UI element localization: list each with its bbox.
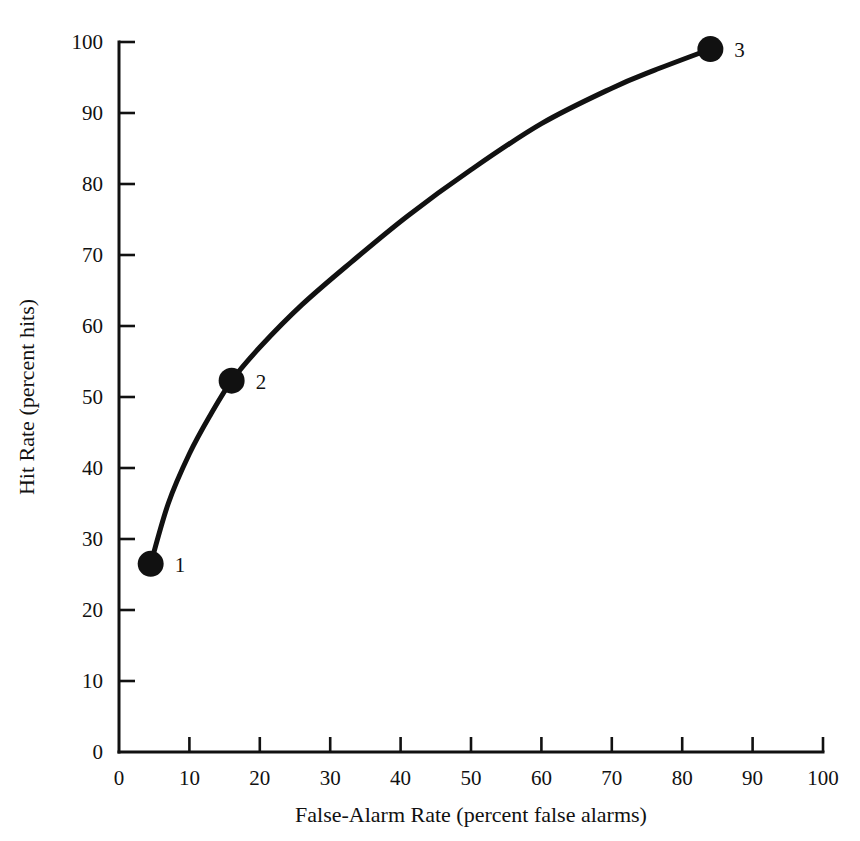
- y-tick-label: 90: [82, 101, 103, 125]
- y-tick-label: 10: [82, 669, 103, 693]
- y-tick-label: 40: [82, 456, 103, 480]
- x-tick-label: 100: [807, 766, 839, 790]
- y-tick-label: 0: [93, 740, 104, 764]
- roc-point-marker: [219, 368, 245, 394]
- y-tick-label: 30: [82, 527, 103, 551]
- x-tick-label: 0: [114, 766, 125, 790]
- x-tick-label: 20: [249, 766, 270, 790]
- x-tick-label: 40: [390, 766, 411, 790]
- roc-point-label: 3: [734, 38, 745, 62]
- x-tick-label: 30: [320, 766, 341, 790]
- roc-chart-svg: 0102030405060708090100 01020304050607080…: [0, 0, 860, 841]
- roc-point-marker: [697, 36, 723, 62]
- y-tick-label: 60: [82, 314, 103, 338]
- roc-point-label: 1: [175, 553, 186, 577]
- x-tick-label: 80: [672, 766, 693, 790]
- x-tick-label: 60: [531, 766, 552, 790]
- x-axis-title: False-Alarm Rate (percent false alarms): [295, 802, 647, 827]
- x-tick-label: 10: [179, 766, 200, 790]
- y-tick-label: 80: [82, 172, 103, 196]
- y-tick-label: 100: [72, 30, 104, 54]
- x-tick-label: 50: [461, 766, 482, 790]
- y-tick-label: 50: [82, 385, 103, 409]
- roc-point-marker: [138, 551, 164, 577]
- y-tick-label: 20: [82, 598, 103, 622]
- y-tick-label: 70: [82, 243, 103, 267]
- y-axis-title: Hit Rate (percent hits): [14, 299, 39, 495]
- chart-background: [0, 0, 860, 841]
- roc-chart-figure: 0102030405060708090100 01020304050607080…: [0, 0, 860, 841]
- x-tick-label: 90: [742, 766, 763, 790]
- roc-point-label: 2: [256, 370, 267, 394]
- x-tick-label: 70: [601, 766, 622, 790]
